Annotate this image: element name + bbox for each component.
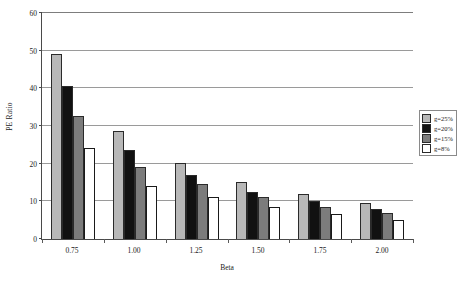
plot-area: 0102030405060: [41, 13, 413, 240]
legend-label: g=8%: [434, 145, 450, 152]
x-tick-label: 1.00: [103, 246, 165, 255]
y-axis-title: PE Ratio: [5, 87, 14, 147]
legend-swatch-icon: [422, 114, 431, 123]
y-tick-label: 50: [30, 46, 43, 55]
legend-swatch-icon: [422, 124, 431, 133]
legend-label: g=15%: [434, 135, 453, 142]
y-tick-label: 10: [30, 197, 43, 206]
y-tick-label: 20: [30, 159, 43, 168]
y-tick-label: 30: [30, 122, 43, 131]
legend-item: g=15%: [422, 133, 453, 143]
x-tick-mark: [289, 239, 290, 243]
x-tick-mark: [166, 239, 167, 243]
chart-legend: g=25%g=20%g=15%g=8%: [419, 110, 457, 156]
x-axis-ticks: [42, 13, 413, 239]
x-axis-title: Beta: [41, 263, 413, 272]
y-tick-label: 40: [30, 84, 43, 93]
legend-label: g=25%: [434, 115, 453, 122]
legend-item: g=25%: [422, 113, 453, 123]
legend-swatch-icon: [422, 134, 431, 143]
x-tick-label: 1.25: [165, 246, 227, 255]
legend-item: g=20%: [422, 123, 453, 133]
x-tick-mark: [104, 239, 105, 243]
legend-swatch-icon: [422, 144, 431, 153]
y-tick-label: 60: [30, 9, 43, 18]
x-tick-mark: [228, 239, 229, 243]
x-tick-label: 1.75: [289, 246, 351, 255]
x-tick-mark: [413, 239, 414, 243]
y-tick-label: 0: [33, 235, 42, 244]
x-tick-mark: [351, 239, 352, 243]
legend-label: g=20%: [434, 125, 453, 132]
x-tick-mark: [42, 239, 43, 243]
pe-ratio-beta-bar-chart: PE Ratio 0102030405060 0.751.001.251.501…: [0, 0, 469, 288]
legend-item: g=8%: [422, 143, 453, 153]
x-tick-label: 2.00: [351, 246, 413, 255]
x-tick-label: 1.50: [227, 246, 289, 255]
x-tick-label: 0.75: [41, 246, 103, 255]
x-axis-labels: 0.751.001.251.501.752.00: [41, 246, 413, 255]
